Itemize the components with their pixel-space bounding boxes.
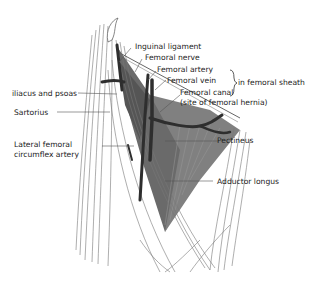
label-femoral-nerve: Femoral nerve xyxy=(145,53,200,62)
label-circumflex-artery: circumflex artery xyxy=(14,150,79,159)
anterior-superior-iliac-spine xyxy=(107,18,118,42)
label-pectineus: Pectineus xyxy=(217,136,254,145)
label-femoral-canal: Femoral canal xyxy=(180,88,233,97)
label-femoral-vein: Femoral vein xyxy=(167,76,216,85)
label-femoral-canal-note: (site of femoral hernia) xyxy=(180,98,268,107)
femoral-triangle-diagram: Inguinal ligament Femoral nerve Femoral … xyxy=(0,0,309,287)
label-adductor-longus: Adductor longus xyxy=(217,177,279,186)
label-lateral-femoral: Lateral femoral xyxy=(14,140,72,149)
label-inguinal-ligament: Inguinal ligament xyxy=(135,42,201,51)
label-iliacus-psoas: iliacus and psoas xyxy=(12,89,77,98)
label-femoral-artery: Femoral artery xyxy=(157,65,213,74)
label-in-femoral-sheath: in femoral sheath xyxy=(238,78,305,87)
label-sartorius: Sartorius xyxy=(14,108,48,117)
